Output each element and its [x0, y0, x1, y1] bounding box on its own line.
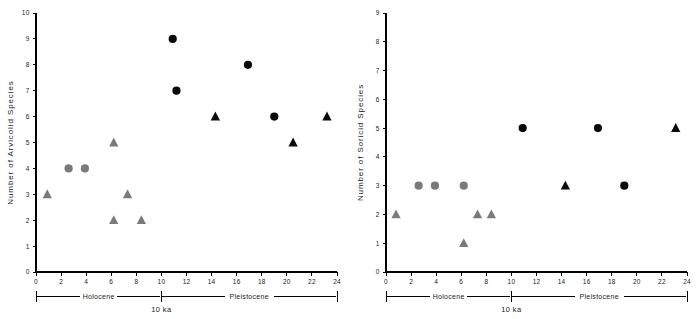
data-point-circle	[244, 61, 252, 69]
data-point-triangle	[487, 209, 496, 218]
pleistocene-period-label: Pleistocene	[579, 293, 619, 300]
x-tick-label: 6	[459, 278, 463, 285]
x-tick-label: 20	[283, 278, 291, 285]
data-point-triangle	[561, 181, 570, 190]
series-1	[43, 138, 146, 225]
chart-panel-soricid: 0123456789024681012141618202224Number of…	[350, 0, 700, 319]
x-tick-label: 4	[84, 278, 88, 285]
series-1	[391, 209, 496, 247]
x-tick-label: 12	[533, 278, 541, 285]
y-tick-label: 8	[376, 38, 380, 45]
x-tick-label: 16	[233, 278, 241, 285]
y-tick-label: 3	[376, 182, 380, 189]
data-point-circle	[172, 87, 180, 95]
x-tick-label: 20	[633, 278, 641, 285]
y-tick-label: 10	[22, 9, 30, 16]
boundary-label: 10 ka	[501, 305, 522, 314]
data-point-triangle	[671, 123, 680, 132]
data-point-triangle	[109, 138, 118, 147]
y-tick-label: 6	[26, 113, 30, 120]
data-point-triangle	[459, 238, 468, 247]
y-tick-label: 8	[26, 61, 30, 68]
y-tick-label: 1	[26, 243, 30, 250]
x-tick-label: 14	[208, 278, 216, 285]
y-axis-title: Number of Arvicolid Species	[6, 80, 15, 204]
data-point-triangle	[43, 189, 52, 198]
chart-panel-arvicolid: 012345678910024681012141618202224Number …	[0, 0, 350, 319]
x-tick-label: 22	[308, 278, 316, 285]
x-tick-label: 24	[333, 278, 341, 285]
x-tick-label: 6	[109, 278, 113, 285]
y-tick-label: 7	[26, 87, 30, 94]
x-tick-label: 0	[34, 278, 38, 285]
data-point-circle	[431, 182, 439, 190]
data-point-triangle	[473, 209, 482, 218]
x-tick-label: 8	[134, 278, 138, 285]
data-point-triangle	[123, 189, 132, 198]
holocene-period-label: Holocene	[83, 293, 115, 300]
y-tick-label: 4	[376, 153, 380, 160]
x-tick-label: 22	[658, 278, 666, 285]
y-axis-title: Number of Soricid Species	[356, 84, 365, 201]
data-point-circle	[460, 182, 468, 190]
data-point-triangle	[109, 215, 118, 224]
data-point-circle	[169, 35, 177, 43]
x-tick-label: 10	[158, 278, 166, 285]
arvicolid-scatter-plot: 012345678910024681012141618202224Number …	[0, 0, 350, 319]
series-2	[169, 35, 279, 121]
y-tick-label: 5	[376, 125, 380, 132]
y-tick-label: 2	[26, 217, 30, 224]
data-point-circle	[81, 164, 89, 172]
y-tick-label: 4	[26, 165, 30, 172]
holocene-period-label: Holocene	[433, 293, 465, 300]
series-0	[65, 164, 90, 172]
boundary-label: 10 ka	[151, 305, 172, 314]
pleistocene-period-label: Pleistocene	[229, 293, 269, 300]
y-tick-label: 7	[376, 67, 380, 74]
soricid-scatter-plot: 0123456789024681012141618202224Number of…	[350, 0, 700, 319]
y-tick-label: 5	[26, 139, 30, 146]
x-tick-label: 18	[608, 278, 616, 285]
figure-root: 012345678910024681012141618202224Number …	[0, 0, 700, 319]
data-point-triangle	[137, 215, 146, 224]
data-point-circle	[620, 182, 628, 190]
series-0	[415, 182, 468, 190]
series-3	[561, 123, 681, 189]
y-tick-label: 9	[376, 9, 380, 16]
data-point-circle	[594, 124, 602, 132]
y-tick-label: 1	[376, 240, 380, 247]
data-point-circle	[270, 113, 278, 121]
data-point-triangle	[391, 209, 400, 218]
x-tick-label: 2	[59, 278, 63, 285]
y-tick-label: 0	[376, 268, 380, 275]
x-tick-label: 4	[434, 278, 438, 285]
x-tick-label: 14	[558, 278, 566, 285]
x-tick-label: 12	[183, 278, 191, 285]
x-tick-label: 10	[508, 278, 516, 285]
data-point-triangle	[288, 138, 297, 147]
y-tick-label: 3	[26, 191, 30, 198]
x-tick-label: 16	[583, 278, 591, 285]
x-tick-label: 24	[683, 278, 691, 285]
data-point-circle	[519, 124, 527, 132]
data-point-triangle	[211, 112, 220, 121]
y-tick-label: 2	[376, 211, 380, 218]
y-tick-label: 6	[376, 96, 380, 103]
x-tick-label: 8	[484, 278, 488, 285]
data-point-triangle	[322, 112, 331, 121]
x-tick-label: 18	[258, 278, 266, 285]
data-point-circle	[415, 182, 423, 190]
y-tick-label: 0	[26, 268, 30, 275]
x-tick-label: 2	[409, 278, 413, 285]
x-tick-label: 0	[384, 278, 388, 285]
data-point-circle	[65, 164, 73, 172]
series-2	[519, 124, 629, 190]
y-tick-label: 9	[26, 35, 30, 42]
